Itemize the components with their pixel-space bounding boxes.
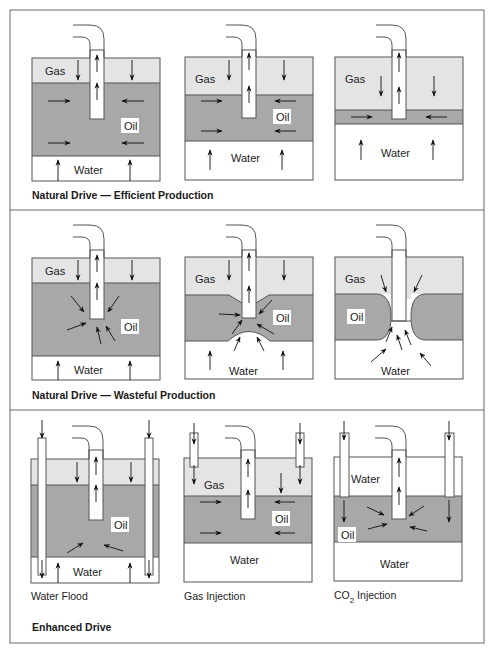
water-label: Water [74, 364, 103, 376]
panel-co2-injection: Water Oil Water [334, 421, 462, 581]
gas-label: Gas [204, 479, 225, 491]
section-caption-wasteful: Natural Drive — Wasteful Production [32, 389, 215, 401]
panel-wasteful-1: Gas Oil Water [32, 225, 160, 380]
co2-main: CO [334, 589, 350, 601]
oil-label: Oil [276, 312, 289, 324]
panel-title-gas-injection: Gas Injection [184, 590, 245, 602]
oil-label: Oil [350, 311, 363, 323]
oil-label: Oil [276, 111, 289, 123]
oil-label: Oil [341, 529, 354, 541]
water-label: Water [380, 558, 409, 570]
oil-label: Oil [124, 120, 137, 132]
gas-label: Gas [195, 273, 216, 285]
panel-efficient-2: Gas Oil Water [185, 25, 313, 180]
oil-label: Oil [275, 513, 288, 525]
water-top-label: Water [351, 473, 380, 485]
water-label: Water [229, 365, 258, 377]
water-label: Water [230, 554, 259, 566]
reservoir-drive-diagram: Gas Oil Water Gas Oil Water [0, 0, 493, 657]
gas-label: Gas [345, 73, 366, 85]
gas-label: Gas [195, 73, 216, 85]
injection-well-pipe [38, 438, 46, 575]
water-label: Water [381, 365, 410, 377]
water-label: Water [231, 152, 260, 164]
water-label: Water [381, 147, 410, 159]
panel-gas-injection: Gas Oil Water [184, 423, 312, 582]
gas-label: Gas [345, 273, 366, 285]
gas-label: Gas [45, 65, 66, 77]
water-label: Water [73, 566, 102, 578]
panel-wasteful-2: Gas Oil Water [185, 225, 313, 379]
panel-water-flood: Oil Water [31, 420, 159, 583]
water-label: Water [74, 164, 103, 176]
panel-efficient-1: Gas Oil Water [32, 25, 160, 181]
oil-label: Oil [124, 321, 137, 333]
injection-well-pipe [145, 438, 153, 575]
panel-title-water-flood: Water Flood [31, 590, 88, 602]
section-caption-efficient: Natural Drive — Efficient Production [32, 189, 213, 201]
oil-label: Oil [114, 519, 127, 531]
gas-label: Gas [45, 265, 66, 277]
panel-wasteful-3: Gas Oil Water [335, 225, 463, 379]
panel-efficient-3: Gas Water [335, 25, 463, 180]
panel-title-co2-injection: CO2 Injection [334, 589, 396, 601]
co2-subscript: 2 [350, 596, 354, 605]
section-caption-enhanced: Enhanced Drive [32, 621, 111, 633]
co2-rest: Injection [354, 589, 396, 601]
